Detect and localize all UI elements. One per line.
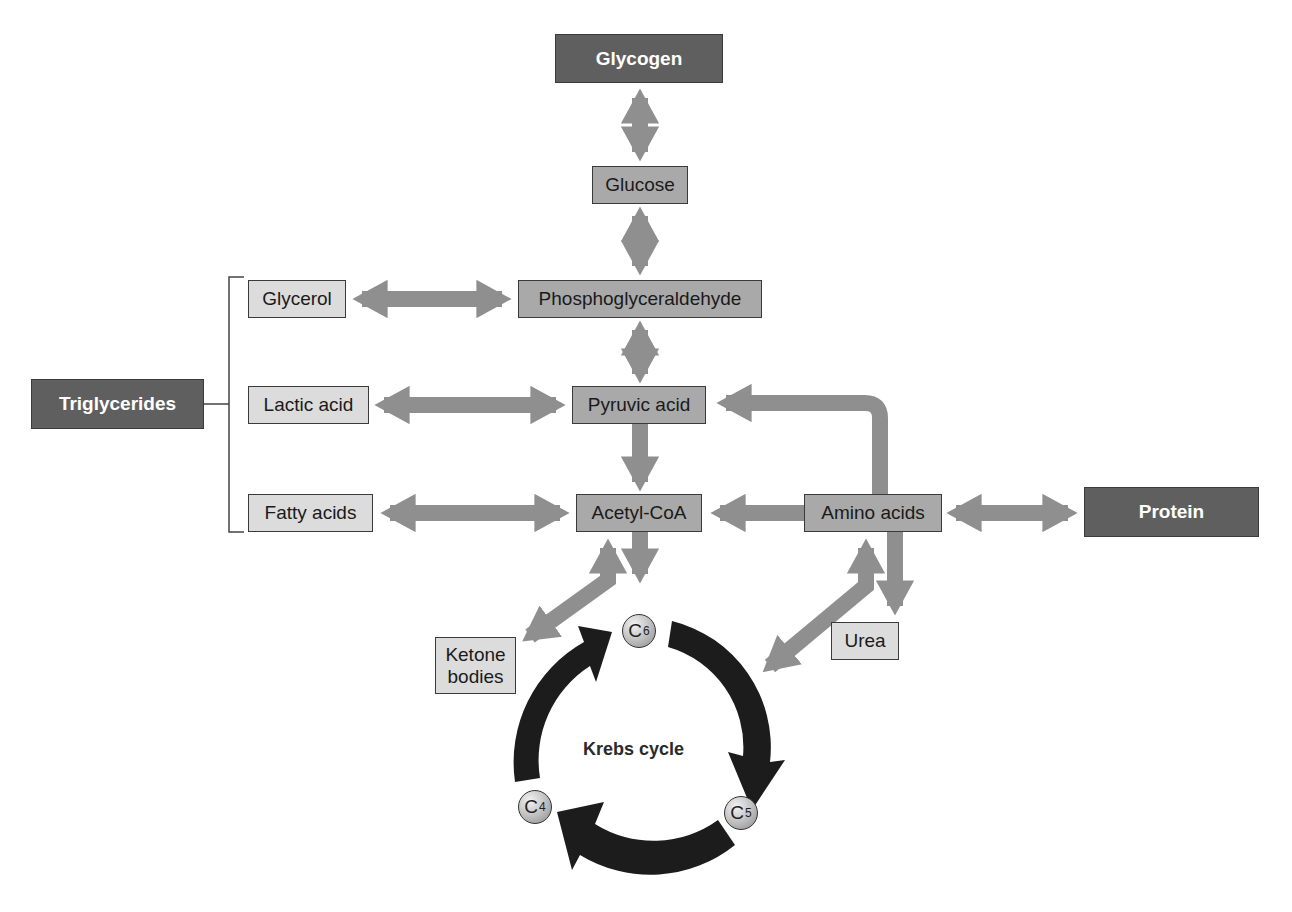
node-protein: Protein bbox=[1084, 487, 1259, 537]
cycle-arrow-c5-c4 bbox=[557, 802, 735, 875]
arrow-amino-pyruvic bbox=[726, 403, 880, 496]
node-ketone-bodies: Ketone bodies bbox=[435, 637, 516, 694]
c5-base: C bbox=[730, 802, 744, 824]
node-glycogen: Glycogen bbox=[555, 34, 723, 83]
arrows-layer bbox=[0, 0, 1292, 912]
c5-sub: 5 bbox=[745, 806, 752, 820]
c6-sub: 6 bbox=[643, 624, 650, 638]
krebs-node-c6: C6 bbox=[622, 614, 656, 648]
node-triglycerides: Triglycerides bbox=[31, 379, 204, 429]
c4-sub: 4 bbox=[539, 800, 546, 814]
node-glucose: Glucose bbox=[592, 166, 688, 204]
krebs-node-c5: C5 bbox=[724, 796, 758, 830]
node-glycerol: Glycerol bbox=[248, 280, 346, 318]
node-fatty-acids: Fatty acids bbox=[248, 494, 373, 532]
cycle-arrow-c6-c5 bbox=[668, 621, 785, 810]
node-pyruvic-acid: Pyruvic acid bbox=[572, 386, 706, 424]
node-urea: Urea bbox=[831, 622, 899, 660]
c4-base: C bbox=[524, 796, 538, 818]
node-amino-acids: Amino acids bbox=[804, 494, 942, 532]
node-acetyl-coa: Acetyl-CoA bbox=[576, 494, 702, 532]
node-phosphoglyceraldehyde: Phosphoglyceraldehyde bbox=[518, 280, 762, 318]
krebs-cycle-label: Krebs cycle bbox=[583, 739, 684, 760]
c6-base: C bbox=[628, 620, 642, 642]
node-lactic-acid: Lactic acid bbox=[248, 386, 369, 424]
krebs-node-c4: C4 bbox=[518, 790, 552, 824]
triglycerides-bracket bbox=[204, 277, 244, 532]
arrow-acetyl-ketone bbox=[530, 548, 608, 636]
